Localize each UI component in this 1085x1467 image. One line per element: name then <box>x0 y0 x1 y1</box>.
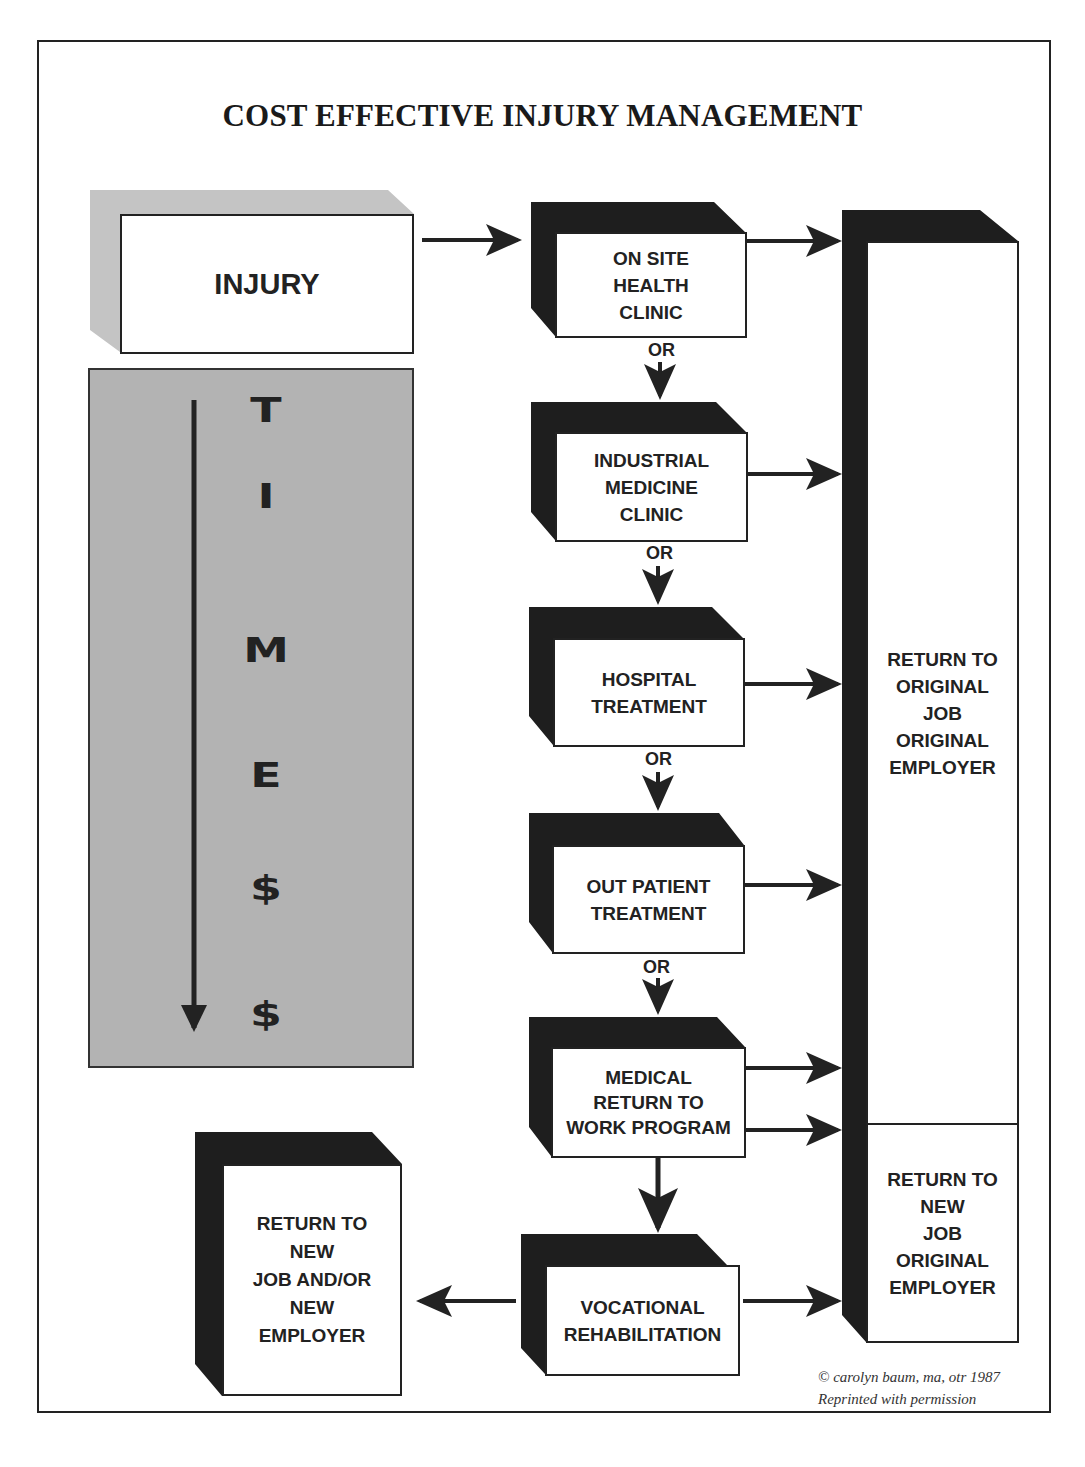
credit-line-2: Reprinted with permission <box>818 1388 1000 1410</box>
copyright-credit: © carolyn baum, ma, otr 1987 Reprinted w… <box>818 1366 1000 1410</box>
cost-symbol-2: $ <box>226 994 307 1034</box>
outcome-new-job-original-employer: RETURN TO NEW JOB ORIGINAL EMPLOYER <box>866 1123 1019 1343</box>
outcome-new-job-new-employer: RETURN TO NEW JOB AND/OR NEW EMPLOYER <box>222 1164 402 1396</box>
step-vocational-rehabilitation: VOCATIONAL REHABILITATION <box>545 1265 740 1376</box>
credit-line-1: © carolyn baum, ma, otr 1987 <box>818 1366 1000 1388</box>
step-medical-return-to-work-program: MEDICAL RETURN TO WORK PROGRAM <box>551 1047 746 1158</box>
or-label-4: OR <box>643 957 670 978</box>
cost-symbol-1: $ <box>226 868 307 908</box>
or-label-2: OR <box>646 543 673 564</box>
time-letter-e: E <box>226 755 307 795</box>
or-label-1: OR <box>648 340 675 361</box>
step-industrial-medicine-clinic: INDUSTRIAL MEDICINE CLINIC <box>555 432 748 542</box>
down-arrow-icon <box>181 1005 207 1032</box>
step-on-site-health-clinic: ON SITE HEALTH CLINIC <box>555 232 747 338</box>
step-out-patient-treatment: OUT PATIENT TREATMENT <box>552 845 745 954</box>
step-hospital-treatment: HOSPITAL TREATMENT <box>553 638 745 747</box>
time-letter-i: I <box>226 476 307 516</box>
time-letter-t: T <box>226 390 307 430</box>
or-label-3: OR <box>645 749 672 770</box>
outcome-original-job-original-employer: RETURN TO ORIGINAL JOB ORIGINAL EMPLOYER <box>866 241 1019 1125</box>
time-letter-m: M <box>226 630 307 670</box>
